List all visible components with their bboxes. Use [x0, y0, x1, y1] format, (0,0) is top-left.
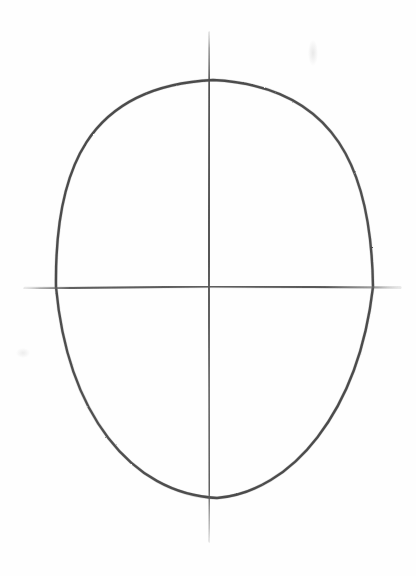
pencil-sketch	[0, 0, 416, 576]
sketch-canvas: Pencil sketch of an egg-shaped head outl…	[0, 0, 416, 576]
horizontal-eyeline	[25, 287, 400, 289]
